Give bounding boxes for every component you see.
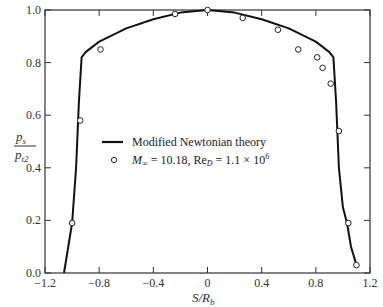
- x-tick-label: −0.4: [142, 276, 164, 290]
- data-point: [328, 81, 334, 87]
- data-point: [240, 15, 246, 21]
- x-tick-label: 1.2: [363, 276, 378, 290]
- data-point: [295, 47, 301, 53]
- x-tick-label: 0: [205, 276, 211, 290]
- y-tick-label: 0.8: [26, 56, 41, 70]
- legend-line-label: Modified Newtonian theory: [132, 135, 266, 149]
- data-point: [77, 118, 83, 124]
- data-point: [354, 262, 360, 268]
- data-point: [69, 220, 75, 226]
- legend-circle-icon: [111, 157, 116, 162]
- data-point: [320, 65, 326, 71]
- data-point: [172, 11, 178, 17]
- y-axis-label: ps pt2: [14, 129, 36, 164]
- data-point: [336, 128, 342, 134]
- svg-text:ps: ps: [15, 129, 27, 146]
- data-point: [275, 27, 281, 33]
- data-point: [205, 7, 211, 13]
- legend: Modified Newtonian theory M∞ = 10.18, Re…: [102, 135, 269, 168]
- x-tick-label: 0.8: [308, 276, 323, 290]
- pressure-distribution-chart: −1.2−0.8−0.400.40.81.20.00.20.40.60.81.0…: [0, 0, 383, 307]
- x-axis-label: S/Rb: [192, 290, 215, 307]
- data-point: [346, 220, 352, 226]
- x-tick-label: 0.4: [254, 276, 269, 290]
- y-tick-label: 0.0: [26, 266, 41, 280]
- x-tick-label: −0.8: [88, 276, 110, 290]
- data-point: [314, 55, 320, 61]
- y-tick-label: 0.6: [26, 108, 41, 122]
- y-tick-label: 1.0: [26, 3, 41, 17]
- svg-text:pt2: pt2: [14, 147, 29, 164]
- legend-marker-label: M∞ = 10.18, ReD = 1.1 × 106: [131, 152, 269, 168]
- data-point: [98, 47, 104, 53]
- y-tick-label: 0.2: [26, 213, 41, 227]
